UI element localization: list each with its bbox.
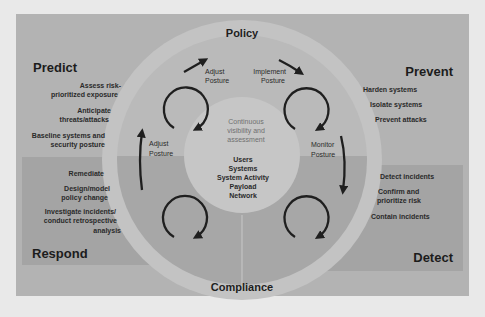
svg-text:Monitor: Monitor [311,141,335,148]
svg-text:Design/model: Design/model [64,185,110,193]
svg-text:visibility and: visibility and [227,127,265,135]
svg-text:Posture: Posture [205,77,229,84]
svg-text:Contain incidents: Contain incidents [371,213,430,220]
svg-text:Remediate: Remediate [69,170,105,177]
svg-text:Assess risk-: Assess risk- [80,82,122,89]
prevent-title: Prevent [405,64,453,79]
svg-text:conduct retrospective: conduct retrospective [44,217,117,225]
compliance-label: Compliance [211,281,273,293]
svg-text:Adjust: Adjust [149,140,169,148]
svg-text:Implement: Implement [253,68,286,76]
svg-text:Investigate incidents/: Investigate incidents/ [45,208,116,216]
svg-text:Posture: Posture [149,150,173,157]
adaptive-security-diagram: Policy Compliance Continuous visibility … [0,0,485,317]
respond-title: Respond [32,246,88,261]
svg-text:analysis: analysis [93,227,121,235]
svg-text:Baseline systems and: Baseline systems and [32,132,105,140]
svg-text:Posture: Posture [311,151,335,158]
svg-text:assessment: assessment [227,136,264,143]
svg-text:Users: Users [233,156,253,163]
svg-text:Isolate systems: Isolate systems [370,101,422,109]
core-heading: Continuous visibility and assessment [227,118,265,143]
svg-text:Systems: Systems [229,165,258,173]
svg-text:Harden systems: Harden systems [363,86,417,94]
predict-title: Predict [33,60,78,75]
svg-text:policy change: policy change [61,194,108,202]
svg-text:security posture: security posture [51,141,106,149]
svg-text:Prevent attacks: Prevent attacks [375,116,427,123]
detect-title: Detect [413,250,453,265]
svg-text:Network: Network [229,192,257,199]
svg-text:Anticipate: Anticipate [77,107,111,115]
policy-label: Policy [226,27,259,39]
svg-text:Continuous: Continuous [228,118,264,125]
svg-text:System Activity: System Activity [217,174,269,182]
svg-text:Adjust: Adjust [205,68,225,76]
svg-text:prioritize risk: prioritize risk [377,197,421,205]
svg-text:threats/attacks: threats/attacks [60,116,110,123]
svg-text:Confirm and: Confirm and [378,188,419,195]
svg-text:Posture: Posture [261,77,285,84]
svg-text:Payload: Payload [230,183,257,191]
svg-text:Detect incidents: Detect incidents [380,173,434,180]
svg-text:prioritized exposure: prioritized exposure [51,91,118,99]
